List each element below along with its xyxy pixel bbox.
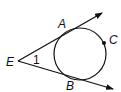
label-angle-1: 1 <box>33 53 40 67</box>
point-C <box>102 41 106 45</box>
tangent-diagram: A B C E 1 <box>0 0 121 92</box>
label-B: B <box>66 79 74 92</box>
label-A: A <box>57 17 66 31</box>
circle <box>54 28 106 80</box>
label-C: C <box>109 33 118 47</box>
label-E: E <box>6 55 15 69</box>
